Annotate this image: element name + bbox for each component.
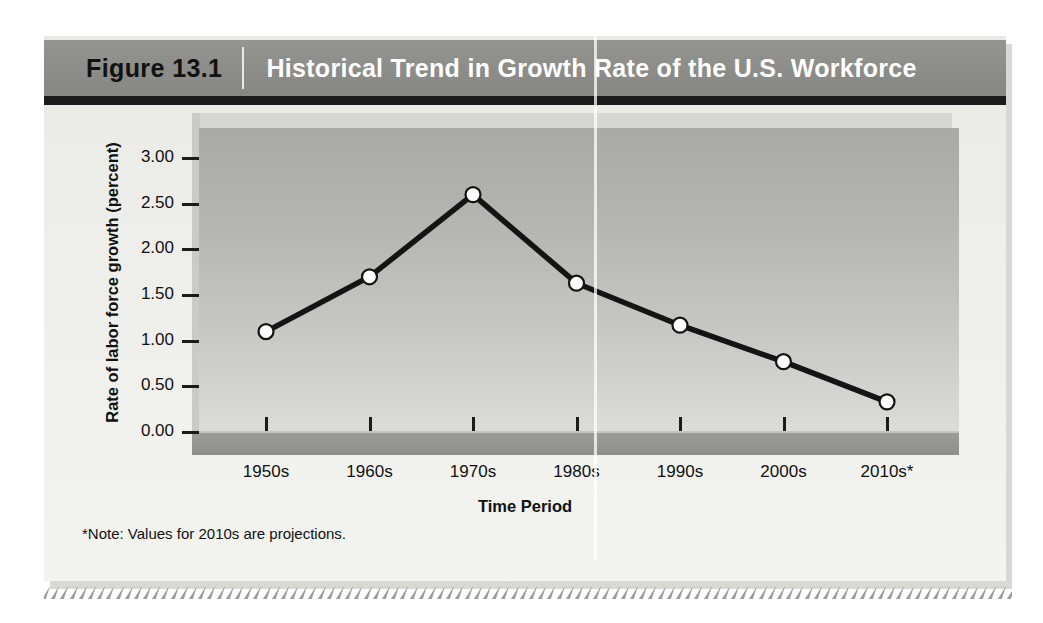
zigzag-tick xyxy=(400,586,408,599)
zigzag-tick xyxy=(942,586,950,599)
data-point-marker xyxy=(880,394,895,409)
figure-number-label: Figure 13.1 xyxy=(44,54,242,83)
zigzag-tick xyxy=(455,586,463,599)
zigzag-tick xyxy=(933,586,941,599)
zigzag-tick xyxy=(740,586,748,599)
zigzag-tick xyxy=(786,586,794,599)
zigzag-tick xyxy=(612,586,620,599)
figure-title-bar: Figure 13.1 Historical Trend in Growth R… xyxy=(44,40,1006,96)
zigzag-tick xyxy=(354,586,362,599)
zigzag-tick xyxy=(465,586,473,599)
zigzag-tick xyxy=(1007,586,1012,599)
zigzag-tick xyxy=(189,586,197,599)
zigzag-tick xyxy=(171,586,179,599)
figure-title: Historical Trend in Growth Rate of the U… xyxy=(244,54,916,83)
zigzag-tick xyxy=(198,586,206,599)
data-point-marker xyxy=(466,187,481,202)
decorative-bottom-border xyxy=(44,586,1012,606)
figure-page: Figure 13.1 Historical Trend in Growth R… xyxy=(0,0,1043,623)
zigzag-tick xyxy=(547,586,555,599)
zigzag-tick xyxy=(134,586,142,599)
zigzag-tick xyxy=(804,586,812,599)
zigzag-tick xyxy=(685,586,693,599)
zigzag-tick xyxy=(244,586,252,599)
zigzag-tick xyxy=(887,586,895,599)
zigzag-tick xyxy=(906,586,914,599)
zigzag-tick xyxy=(115,586,123,599)
data-point-marker xyxy=(569,276,584,291)
zigzag-tick xyxy=(409,586,417,599)
zigzag-tick xyxy=(630,586,638,599)
zigzag-tick xyxy=(841,586,849,599)
zigzag-tick xyxy=(988,586,996,599)
zigzag-tick xyxy=(437,586,445,599)
zigzag-tick xyxy=(79,586,87,599)
zigzag-tick xyxy=(657,586,665,599)
zigzag-tick xyxy=(860,586,868,599)
zigzag-tick xyxy=(639,586,647,599)
zigzag-tick xyxy=(501,586,509,599)
zigzag-tick xyxy=(216,586,224,599)
data-point-marker xyxy=(362,269,377,284)
zigzag-tick xyxy=(180,586,188,599)
zigzag-tick xyxy=(795,586,803,599)
zigzag-tick xyxy=(474,586,482,599)
zigzag-tick xyxy=(896,586,904,599)
zigzag-tick xyxy=(281,586,289,599)
zigzag-tick xyxy=(235,586,243,599)
zigzag-tick xyxy=(970,586,978,599)
zigzag-tick xyxy=(60,586,68,599)
zigzag-tick xyxy=(814,586,822,599)
zigzag-tick xyxy=(106,586,114,599)
zigzag-tick xyxy=(759,586,767,599)
zigzag-tick xyxy=(262,586,270,599)
zigzag-tick xyxy=(44,586,50,599)
zigzag-tick xyxy=(207,586,215,599)
zigzag-tick xyxy=(924,586,932,599)
title-underline xyxy=(44,96,1006,105)
zigzag-tick xyxy=(878,586,886,599)
zigzag-tick xyxy=(318,586,326,599)
zigzag-tick xyxy=(373,586,381,599)
zigzag-tick xyxy=(694,586,702,599)
zigzag-tick xyxy=(621,586,629,599)
data-point-marker xyxy=(259,324,274,339)
zigzag-tick xyxy=(510,586,518,599)
zigzag-tick xyxy=(272,586,280,599)
zigzag-tick xyxy=(556,586,564,599)
data-series-layer xyxy=(44,105,1006,560)
zigzag-tick xyxy=(667,586,675,599)
data-point-marker xyxy=(673,318,688,333)
zigzag-tick xyxy=(529,586,537,599)
zigzag-tick xyxy=(713,586,721,599)
zigzag-tick xyxy=(382,586,390,599)
zigzag-tick xyxy=(566,586,574,599)
zigzag-tick xyxy=(428,586,436,599)
zigzag-tick xyxy=(446,586,454,599)
zigzag-tick xyxy=(143,586,151,599)
zigzag-tick xyxy=(51,586,59,599)
zigzag-tick xyxy=(768,586,776,599)
zigzag-tick xyxy=(538,586,546,599)
zigzag-tick xyxy=(979,586,987,599)
zigzag-tick xyxy=(731,586,739,599)
zigzag-tick xyxy=(575,586,583,599)
page-gutter xyxy=(594,0,597,560)
zigzag-tick xyxy=(602,586,610,599)
zigzag-tick xyxy=(327,586,335,599)
zigzag-tick xyxy=(253,586,261,599)
zigzag-tick xyxy=(749,586,757,599)
zigzag-tick xyxy=(520,586,528,599)
zigzag-tick xyxy=(88,586,96,599)
zigzag-tick xyxy=(593,586,601,599)
zigzag-tick xyxy=(722,586,730,599)
zigzag-tick xyxy=(676,586,684,599)
zigzag-tick xyxy=(125,586,133,599)
zigzag-tick xyxy=(161,586,169,599)
zigzag-tick xyxy=(850,586,858,599)
zigzag-tick xyxy=(832,586,840,599)
zigzag-tick xyxy=(492,586,500,599)
zigzag-tick xyxy=(308,586,316,599)
zigzag-tick xyxy=(363,586,371,599)
chart-container: Rate of labor force growth (percent) 0.0… xyxy=(44,105,1006,560)
